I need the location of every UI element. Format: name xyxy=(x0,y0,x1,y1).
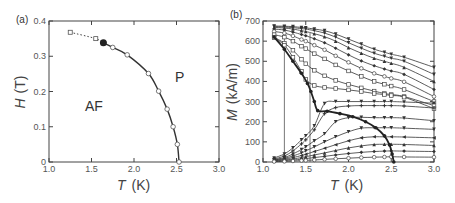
data-point-marker xyxy=(383,75,387,79)
data-point-marker xyxy=(347,46,351,50)
data-point-marker xyxy=(383,67,387,71)
data-point-marker xyxy=(372,47,376,51)
data-point-marker xyxy=(300,148,304,152)
data-point-marker xyxy=(313,52,317,56)
data-point-marker xyxy=(347,83,351,87)
data-point-marker xyxy=(334,54,338,58)
data-point-marker xyxy=(372,135,376,139)
data-point-marker xyxy=(360,151,364,155)
data-point-marker xyxy=(360,67,364,71)
data-point-marker xyxy=(402,149,406,153)
data-point-square xyxy=(68,30,72,34)
panel-a-ylabel-var: H xyxy=(12,98,28,109)
data-point-marker xyxy=(300,57,304,61)
figure: (a) 1.01.52.02.53.000.10.20.30.4 AF P T(… xyxy=(0,0,455,203)
data-point-marker xyxy=(347,41,351,45)
data-point-circle xyxy=(175,142,180,147)
y-tick-label: 0 xyxy=(255,157,260,167)
data-point-circle xyxy=(110,45,115,50)
panel-a-label: (a) xyxy=(16,14,28,25)
boundary-point xyxy=(272,35,276,39)
data-point-marker xyxy=(347,130,351,134)
data-point-marker xyxy=(372,64,376,68)
data-point-marker xyxy=(372,155,376,159)
panel-a-ticks: 1.01.52.02.53.000.10.20.30.4 xyxy=(33,16,225,174)
data-point-marker xyxy=(402,88,406,92)
data-point-marker xyxy=(432,66,436,70)
tricritical-point xyxy=(100,39,107,46)
panel-a-axes-frame xyxy=(49,21,219,162)
data-point-marker xyxy=(323,35,327,39)
data-point-marker xyxy=(300,38,304,42)
data-point-marker xyxy=(432,150,436,154)
data-point-marker xyxy=(323,41,327,45)
data-point-marker xyxy=(402,135,406,139)
data-point-marker xyxy=(334,106,338,110)
boundary-point xyxy=(313,100,317,104)
data-point-circle xyxy=(156,89,161,94)
x-tick-label: 2.0 xyxy=(342,164,355,174)
data-point-circle xyxy=(165,107,170,112)
data-point-marker xyxy=(389,84,393,88)
data-point-marker xyxy=(347,37,351,41)
data-point-marker xyxy=(389,77,393,81)
data-point-marker xyxy=(432,95,436,99)
boundary-point xyxy=(291,59,295,63)
y-tick-label: 600 xyxy=(245,36,260,46)
data-point-marker xyxy=(313,84,317,88)
panel-b-series xyxy=(272,24,435,164)
data-point-marker xyxy=(313,150,317,154)
data-point-marker xyxy=(300,33,304,37)
data-point-marker xyxy=(402,104,406,108)
boundary-point xyxy=(390,152,394,156)
data-point-marker xyxy=(323,57,327,61)
panel-b-magnetization: (b) 1.01.52.02.53.0010020030040050060070… xyxy=(224,9,440,193)
y-tick-label: 500 xyxy=(245,56,260,66)
region-af-label: AF xyxy=(85,98,103,114)
panel-a-ylabel: H(T) xyxy=(12,75,28,108)
data-point-marker xyxy=(334,135,338,139)
data-point-marker xyxy=(334,79,338,83)
data-point-marker xyxy=(372,72,376,76)
panel-b-xlabel-var: T xyxy=(330,177,340,193)
boundary-point xyxy=(316,109,320,113)
panel-a-ylabel-unit: (T) xyxy=(12,75,28,93)
boundary-point xyxy=(338,112,342,116)
data-point-marker xyxy=(334,87,338,91)
data-point-marker xyxy=(347,60,351,64)
data-point-marker xyxy=(334,63,338,67)
data-point-marker xyxy=(283,35,287,39)
data-point-marker xyxy=(360,86,364,90)
x-tick-label: 2.5 xyxy=(170,164,183,174)
magnetization-curve xyxy=(274,128,434,160)
y-tick-label: 300 xyxy=(245,97,260,107)
boundary-point xyxy=(351,115,355,119)
region-p-label: P xyxy=(175,69,184,85)
y-tick-label: 0.4 xyxy=(33,16,46,26)
data-point-marker xyxy=(360,136,364,140)
data-point-marker xyxy=(389,94,393,98)
data-point-marker xyxy=(372,56,376,60)
boundary-point xyxy=(374,126,378,130)
data-point-marker xyxy=(402,80,406,84)
data-point-marker xyxy=(291,48,295,52)
data-point-marker xyxy=(372,51,376,55)
y-tick-label: 0.3 xyxy=(33,51,46,61)
data-point-marker xyxy=(360,46,364,50)
panel-b-xlabel: T(K) xyxy=(330,177,363,193)
data-point-marker xyxy=(291,34,295,38)
magnetization-curve xyxy=(274,37,434,105)
data-point-marker xyxy=(383,82,387,86)
data-point-marker xyxy=(360,42,364,46)
panel-a-phase-diagram: (a) 1.01.52.02.53.000.10.20.30.4 AF P T(… xyxy=(12,14,225,193)
data-point-circle xyxy=(177,160,182,165)
data-point-marker xyxy=(372,104,376,108)
y-tick-label: 100 xyxy=(245,137,260,147)
data-point-marker xyxy=(432,73,436,77)
data-point-marker xyxy=(334,35,338,39)
x-tick-label: 3.0 xyxy=(428,164,441,174)
boundary-point xyxy=(388,143,392,147)
data-point-marker xyxy=(360,104,364,108)
data-point-marker xyxy=(300,159,304,163)
boundary-point xyxy=(283,47,287,51)
